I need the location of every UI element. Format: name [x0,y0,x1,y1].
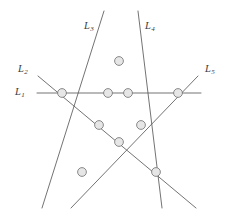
line-arrangement-diagram [0,0,227,221]
label-l5-subscript: 5 [211,68,215,76]
label-l4: L4 [145,21,155,32]
label-l1-subscript: 1 [21,91,25,99]
label-l3: L3 [84,21,94,32]
intersection-node-p35 [78,168,87,177]
intersection-nodes-group [58,57,183,177]
line-l4 [138,11,162,208]
intersection-node-p15 [174,89,183,98]
intersection-node-p13 [104,89,113,98]
label-l2-subscript: 2 [24,68,28,76]
label-l4-subscript: 4 [151,25,155,33]
intersection-node-p23 [95,121,104,130]
line-l3 [42,11,104,208]
intersection-node-p25 [115,138,124,147]
intersection-node-p24 [152,168,161,177]
label-l3-subscript: 3 [90,25,94,33]
label-l5: L5 [205,64,215,75]
intersection-node-p12 [58,89,67,98]
intersection-node-p34 [115,57,124,66]
label-l2: L2 [18,64,28,75]
intersection-node-p45 [137,121,146,130]
intersection-node-p14 [124,89,133,98]
label-l1: L1 [15,87,25,98]
lines-group [37,11,201,208]
figure-canvas: L1L2L3L4L5 [0,0,227,221]
